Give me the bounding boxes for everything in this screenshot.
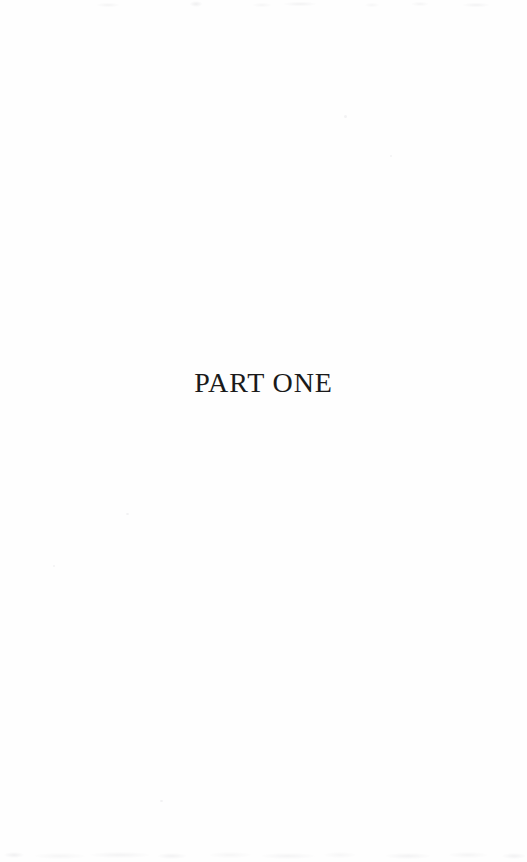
scan-fleck bbox=[390, 155, 392, 157]
bottom-edge-scan-artifact bbox=[0, 844, 527, 862]
part-title: PART ONE bbox=[194, 369, 333, 397]
book-part-title-page: PART ONE bbox=[0, 0, 527, 862]
scan-fleck bbox=[53, 565, 55, 567]
top-edge-scan-artifact bbox=[0, 0, 527, 14]
part-title-block: PART ONE bbox=[0, 369, 527, 397]
scan-fleck bbox=[344, 115, 347, 118]
scan-fleck bbox=[160, 800, 163, 802]
scan-fleck bbox=[126, 513, 129, 515]
